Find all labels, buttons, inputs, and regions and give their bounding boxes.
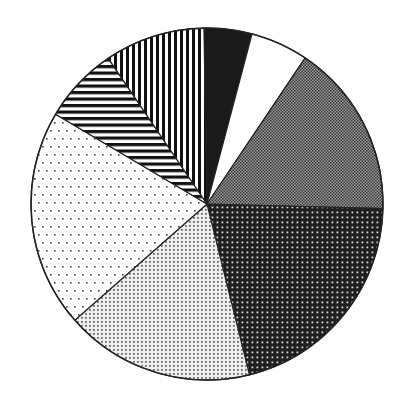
pie-chart (0, 0, 418, 393)
pie-slices (31, 28, 383, 380)
